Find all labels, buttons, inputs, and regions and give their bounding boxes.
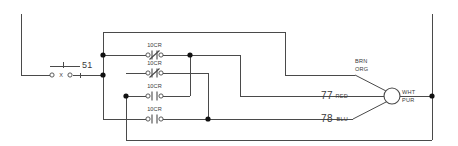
lower-left-drop	[126, 96, 432, 140]
switch-51-terminal-right	[68, 73, 72, 77]
connector-pigtail-blu	[353, 101, 388, 119]
connector-brn-label: BRN	[355, 58, 367, 64]
connector-org-label: ORG	[355, 66, 368, 72]
switch-51-group[interactable]: X 51	[49, 60, 103, 78]
left-power-rail	[21, 14, 49, 75]
contact-2-terminal-right	[159, 71, 163, 75]
contact-row-4[interactable]: 10CR	[103, 106, 240, 124]
connector-pur-label: PUR	[402, 97, 414, 103]
switch-51-terminal-left	[50, 73, 54, 77]
switch-51-cross-marker: X	[59, 72, 63, 78]
schematic-canvas: X 51 10CR	[0, 0, 458, 146]
contact-1-terminal-left	[146, 53, 150, 57]
contact-1-nc-slash	[150, 51, 160, 60]
contact-2-label: 10CR	[147, 60, 162, 66]
switch-51-label: 51	[82, 60, 93, 70]
contact-2-terminal-left	[146, 71, 150, 75]
terminal-77-number: 77	[321, 90, 333, 101]
terminal-78-wire-color: BLU	[337, 116, 348, 122]
junction-node	[187, 52, 192, 57]
junction-node	[205, 116, 210, 121]
contact-4-terminal-left	[146, 117, 150, 121]
junction-node	[100, 72, 105, 77]
contact-1-label: 10CR	[147, 42, 162, 48]
contact-4-terminal-right	[159, 117, 163, 121]
connector-wht-label: WHT	[402, 89, 416, 95]
terminal-78-number: 78	[321, 113, 333, 124]
schematic-diagram: X 51 10CR	[0, 0, 458, 146]
contact-row-1[interactable]: 10CR	[103, 42, 190, 60]
contact-row-3[interactable]: 10CR	[126, 83, 190, 101]
contact-4-label: 10CR	[147, 106, 162, 112]
contact-row-2[interactable]: 10CR	[126, 60, 208, 78]
contact-3-terminal-right	[159, 94, 163, 98]
contact-3-terminal-left	[146, 94, 150, 98]
plug-connector-icon[interactable]	[384, 88, 400, 104]
junction-node	[123, 93, 128, 98]
contact-3-label: 10CR	[147, 83, 162, 89]
junction-node	[429, 93, 434, 98]
connector-pigtail-brn-org	[355, 75, 388, 92]
terminal-77-wire-color: RED	[336, 93, 348, 99]
junction-node	[100, 52, 105, 57]
top-feeder-wire	[103, 32, 285, 75]
contact-2-nc-slash	[150, 69, 160, 78]
contact-1-terminal-right	[159, 53, 163, 57]
